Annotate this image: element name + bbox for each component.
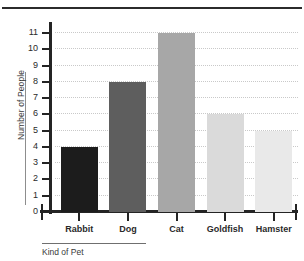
y-axis-tick: [42, 32, 50, 34]
bar-chart-figure: Number of People 01234567891011 RabbitDo…: [0, 0, 304, 261]
x-axis-label-rabbit: Rabbit: [65, 224, 93, 234]
y-axis-tick: [42, 211, 50, 213]
x-axis-tick: [224, 213, 226, 221]
x-axis-tick: [273, 213, 275, 221]
x-axis-title-rule: [42, 243, 146, 244]
x-axis-label-cat: Cat: [169, 224, 184, 234]
y-axis-tick-label: 2: [18, 174, 38, 183]
y-axis-tick-label: 4: [18, 142, 38, 151]
bars-group: [55, 23, 298, 212]
y-axis-tick: [42, 178, 50, 180]
y-axis-tick: [42, 81, 50, 83]
y-axis-tick: [42, 65, 50, 67]
y-axis-tick-label: 3: [18, 158, 38, 167]
x-axis-start-tick: [41, 204, 43, 220]
y-axis-tick-label: 8: [18, 77, 38, 86]
y-axis-tick-label: 5: [18, 126, 38, 135]
y-axis-tick-label: 1: [18, 191, 38, 200]
y-axis-tick-label: 11: [18, 28, 38, 37]
y-axis-tick-label: 9: [18, 61, 38, 70]
bar-rabbit: [61, 147, 98, 212]
y-axis-line: [49, 22, 52, 214]
x-axis-label-hamster: Hamster: [256, 224, 292, 234]
x-axis-label-dog: Dog: [119, 224, 137, 234]
x-axis-end-tick: [295, 204, 297, 220]
y-axis-tick: [42, 48, 50, 50]
y-axis-tick-label: 7: [18, 93, 38, 102]
y-axis-tick: [42, 113, 50, 115]
y-axis-tick-label: 0: [18, 207, 38, 216]
bar-cat: [158, 33, 195, 212]
y-axis-tick: [42, 130, 50, 132]
x-axis-label-goldfish: Goldfish: [207, 224, 244, 234]
y-axis-tick: [42, 162, 50, 164]
x-axis-tick: [127, 213, 129, 221]
x-axis-tick: [176, 213, 178, 221]
y-axis-tick: [42, 195, 50, 197]
bar-hamster: [255, 131, 292, 212]
y-axis-tick-label: 6: [18, 109, 38, 118]
x-axis-tick: [78, 213, 80, 221]
bar-goldfish: [207, 114, 244, 212]
bar-dog: [109, 82, 146, 212]
y-axis-tick: [42, 97, 50, 99]
x-axis-title: Kind of Pet: [42, 247, 84, 257]
y-axis-tick: [42, 146, 50, 148]
y-axis-tick-label: 10: [18, 44, 38, 53]
